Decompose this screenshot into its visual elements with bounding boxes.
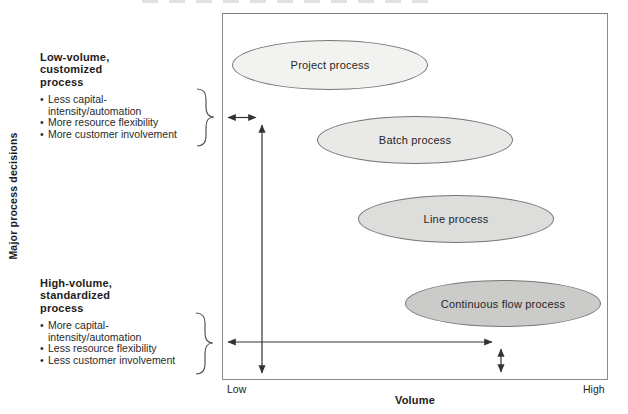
bullet-text: More customer involvement — [48, 129, 200, 141]
bullet-item: • More capital-intensity/automation — [40, 320, 212, 343]
bullet-glyph: • — [40, 320, 48, 332]
y-axis-label: Major process decisions — [7, 121, 19, 271]
bullet-text: Less customer involvement — [48, 355, 200, 367]
title-line: standardized — [40, 289, 212, 301]
low-volume-annotation: Low-volume, customized process • Less ca… — [40, 51, 212, 141]
x-axis-title: Volume — [222, 394, 608, 406]
title-line: customized — [40, 63, 212, 75]
bullet-glyph: • — [40, 129, 48, 141]
process-ellipse-batch: Batch process — [317, 116, 513, 164]
title-line: High-volume, — [40, 277, 212, 289]
process-ellipse-continuous-flow: Continuous flow process — [405, 280, 601, 327]
bullet-text: More capital-intensity/automation — [48, 320, 200, 343]
process-label: Project process — [291, 59, 370, 71]
title-line: Low-volume, — [40, 51, 212, 63]
bullet-glyph: • — [40, 355, 48, 367]
bullet-item: • Less customer involvement — [40, 355, 212, 367]
title-line: process — [40, 302, 212, 314]
high-volume-title: High-volume, standardized process — [40, 277, 212, 314]
process-label: Batch process — [379, 134, 451, 146]
title-line: process — [40, 76, 212, 88]
bullet-item: • Less capital-intensity/automation — [40, 94, 212, 117]
figure-canvas: Major process decisions Low-volume, cust… — [0, 0, 628, 414]
high-volume-bullets: • More capital-intensity/automation • Le… — [40, 320, 212, 366]
bullet-text: Less capital-intensity/automation — [48, 94, 200, 117]
bullet-glyph: • — [40, 94, 48, 106]
bullet-item: • More customer involvement — [40, 129, 212, 141]
process-label: Continuous flow process — [441, 298, 565, 310]
process-ellipse-project: Project process — [232, 40, 428, 90]
process-label: Line process — [424, 213, 489, 225]
cropped-caption-artifact — [142, 0, 434, 3]
low-volume-bullets: • Less capital-intensity/automation • Mo… — [40, 94, 212, 140]
low-volume-title: Low-volume, customized process — [40, 51, 212, 88]
high-volume-annotation: High-volume, standardized process • More… — [40, 277, 212, 367]
process-ellipse-line: Line process — [358, 195, 554, 243]
